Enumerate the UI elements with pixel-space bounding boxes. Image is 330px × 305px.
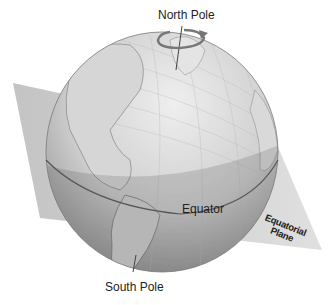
south-pole-label: South Pole — [105, 280, 164, 294]
equator-label: Equator — [182, 202, 224, 216]
globe-diagram: North Pole Equator Equatorial Plane Sout… — [0, 0, 330, 305]
north-pole-label: North Pole — [158, 8, 215, 22]
globe — [46, 32, 278, 300]
